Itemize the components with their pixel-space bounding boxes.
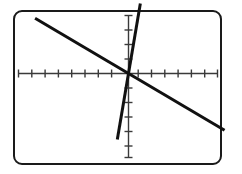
graphing-calculator-screen-frame xyxy=(13,10,222,165)
screenshot-root: Graphing calculator screen showing two i… xyxy=(0,0,242,174)
plot-description: Graphing calculator screen showing two i… xyxy=(0,0,1,1)
